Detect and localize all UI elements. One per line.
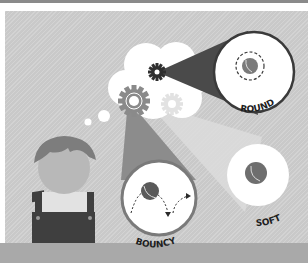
- bouncy-label: BOUNCY: [134, 235, 177, 249]
- person-figure: [32, 136, 96, 243]
- soft-label: SOFT: [255, 212, 282, 228]
- illustration-frame: ROUND BOUNCY SOFT: [0, 0, 308, 263]
- overalls: [32, 212, 95, 243]
- tennis-ball-icon: [242, 58, 258, 74]
- overall-button: [36, 216, 40, 220]
- illustration-svg: ROUND BOUNCY SOFT: [0, 0, 308, 263]
- tennis-ball-icon: [141, 182, 159, 200]
- overall-button: [88, 216, 92, 220]
- round-concept: ROUND: [214, 32, 294, 114]
- tennis-ball-icon: [245, 162, 267, 184]
- soft-concept: SOFT: [227, 144, 289, 228]
- bouncy-concept: BOUNCY: [122, 161, 196, 249]
